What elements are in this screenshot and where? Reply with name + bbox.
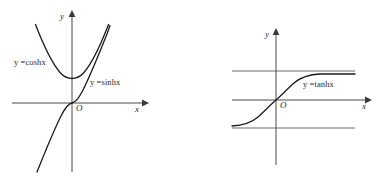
- tanh-plot: [193, 0, 386, 190]
- y-axis-arrow-icon: [69, 10, 76, 17]
- x-axis-arrow-icon: [142, 100, 149, 107]
- origin-label: O: [280, 101, 287, 110]
- tanh-panel: y =tanhx O x y: [193, 0, 386, 190]
- y-axis-label: y: [60, 12, 64, 21]
- sinh-curve-label: y =sinhx: [90, 78, 120, 87]
- cosh-curve-label: y =coshx: [14, 58, 46, 67]
- x-axis-label: x: [135, 105, 139, 114]
- y-axis-arrow-icon: [273, 28, 280, 35]
- figure-root: y =coshx y =sinhx O x y y =tanhx O x y: [0, 0, 386, 190]
- y-axis-label: y: [265, 30, 269, 39]
- tanh-curve-label: y =tanhx: [303, 80, 334, 89]
- origin-label: O: [76, 104, 83, 113]
- sinh-cosh-plot: [0, 0, 193, 190]
- x-axis-label: x: [362, 102, 366, 111]
- sinh-cosh-panel: y =coshx y =sinhx O x y: [0, 0, 193, 190]
